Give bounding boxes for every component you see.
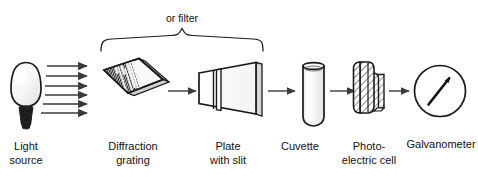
label-plate-with-slit-line1: Plate — [215, 140, 240, 152]
plate-right-edge — [256, 63, 262, 117]
cuvette-graphic — [303, 63, 324, 126]
label-cuvette-line1: Cuvette — [281, 140, 319, 152]
label-diffraction-grating-line1: Diffraction — [108, 140, 157, 152]
galvanometer-graphic — [415, 66, 466, 117]
diagram-canvas: or filter — [0, 0, 478, 177]
label-photoelectric-cell-line2: electric cell — [342, 154, 396, 166]
label-plate-with-slit-line2: with slit — [209, 154, 246, 166]
photocell-icon — [354, 62, 361, 113]
photocell-body — [360, 62, 374, 113]
label-light-source-line1: Light — [14, 140, 38, 152]
light-bulb-icon — [11, 63, 41, 107]
label-diffraction-grating-line2: grating — [116, 154, 150, 166]
bulb-highlight — [15, 67, 28, 85]
label-photoelectric-cell-line1: Photo- — [353, 140, 386, 152]
brace-label-text: or filter — [166, 12, 199, 24]
label-light-source-line2: source — [9, 154, 42, 166]
label-galvanometer-line1: Galvanometer — [406, 138, 475, 150]
optical-setup-diagram: or filter — [0, 0, 478, 177]
slit-opening — [217, 69, 222, 111]
